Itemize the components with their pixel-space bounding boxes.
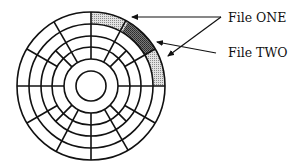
sector-spoke (125, 106, 155, 124)
label-file-one: File ONE (228, 10, 286, 25)
track-ring (64, 59, 118, 113)
disk-allocation-diagram: File ONE File TWO (0, 0, 291, 163)
sector-file-two (122, 22, 155, 55)
arrow-file-one-b (168, 17, 221, 56)
sector-spoke (27, 106, 57, 124)
label-file-two: File TWO (228, 45, 287, 60)
diagram-canvas: File ONE File TWO (0, 0, 291, 163)
spindle-hole (76, 71, 106, 101)
sector-spoke (27, 49, 57, 67)
arrow-file-two (157, 42, 216, 53)
